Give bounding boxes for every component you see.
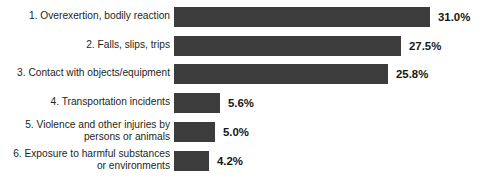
chart-row: 6. Exposure to harmful substances or env… — [0, 151, 492, 171]
chart-row: 5. Violence and other injuries by person… — [0, 122, 492, 142]
category-label: 3. Contact with objects/equipment — [6, 67, 170, 79]
chart-row: 4. Transportation incidents 5.6% — [0, 93, 492, 113]
bar — [174, 122, 215, 142]
horizontal-bar-chart: 1. Overexertion, bodily reaction 31.0% 2… — [0, 0, 492, 182]
value-label: 5.6% — [228, 93, 254, 113]
value-label: 4.2% — [217, 151, 243, 171]
bar — [174, 93, 220, 113]
category-label: 4. Transportation incidents — [6, 96, 170, 108]
value-label: 5.0% — [223, 122, 249, 142]
chart-row: 1. Overexertion, bodily reaction 31.0% — [0, 7, 492, 27]
category-label: 6. Exposure to harmful substances or env… — [6, 148, 170, 173]
chart-row: 3. Contact with objects/equipment 25.8% — [0, 64, 492, 84]
bar — [174, 36, 401, 56]
category-label: 1. Overexertion, bodily reaction — [6, 10, 170, 22]
value-label: 31.0% — [438, 7, 470, 27]
value-label: 25.8% — [396, 64, 428, 84]
chart-row: 2. Falls, slips, trips 27.5% — [0, 36, 492, 56]
category-label: 2. Falls, slips, trips — [6, 39, 170, 51]
bar — [174, 7, 430, 27]
category-label: 5. Violence and other injuries by person… — [6, 119, 170, 144]
bar — [174, 64, 388, 84]
bar — [174, 151, 209, 171]
value-label: 27.5% — [409, 36, 441, 56]
